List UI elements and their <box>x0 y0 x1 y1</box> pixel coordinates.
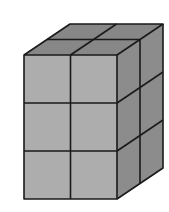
cube-prism-diagram: Rectangular prism built from unit cubes <box>0 0 169 212</box>
prism-drawing <box>0 0 169 212</box>
